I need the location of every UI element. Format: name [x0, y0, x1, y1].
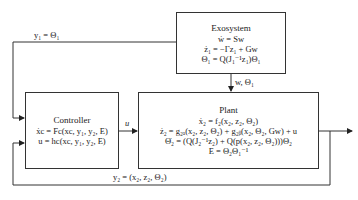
exosystem-eq-theta1: Θ₁ = Q(J₁⁻¹z₁)Θ₁ [201, 54, 260, 64]
y1-label: y₁ = Θ₁ [34, 30, 59, 40]
exosystem-eq-z1: ż₁ = −Γz₁ + Gw [204, 44, 258, 54]
controller-title: Controller [54, 115, 91, 126]
w-theta-label: w, Θ₁ [235, 77, 254, 87]
exosystem-title: Exosystem [211, 23, 251, 34]
u-label: u [125, 118, 129, 128]
plant-title: Plant [219, 105, 238, 116]
exosystem-block: Exosystem ẇ = Sw ż₁ = −Γz₁ + Gw Θ₁ = Q(J… [176, 12, 286, 74]
exosystem-eq-w: ẇ = Sw [218, 34, 244, 44]
plant-eq-x2: ẋ₂ = f₂(x₂, z₂, Θ₂) [199, 116, 258, 126]
controller-block: Controller ẋc = Fc(xc, y₁, y₂, E) u = hc… [25, 92, 119, 169]
controller-eq-u: u = hc(xc, y₁, y₂, E) [38, 136, 105, 146]
plant-block: Plant ẋ₂ = f₂(x₂, z₂, Θ₂) ż₂ = g₂ₐ(x₂, z… [138, 92, 319, 169]
plant-eq-E: E = Θ₂Θ₁⁻¹ [209, 146, 248, 156]
plant-eq-theta2: Θ̇₂ = (Q(J₂⁻¹z₂) + Q(p(x₂, z₂, Θ₂)))Θ₂ [165, 136, 292, 146]
controller-eq-xc: ẋc = Fc(xc, y₁, y₂, E) [36, 126, 108, 136]
plant-eq-z2: ż₂ = g₂ₐ(x₂, z₂, Θ₂) + g₂ᵦ(x₂, Θ₂, Gw) +… [160, 126, 297, 136]
y2-label: y₂ = (x₂, z₂, Θ₂) [113, 172, 166, 182]
